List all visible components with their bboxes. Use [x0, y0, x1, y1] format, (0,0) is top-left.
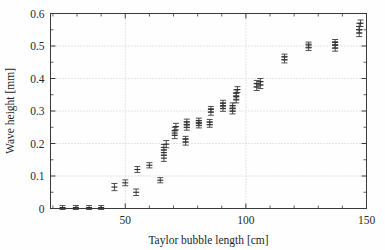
data-point	[157, 178, 163, 183]
data-point	[357, 20, 363, 27]
data-point	[183, 136, 189, 142]
y-tick-label: 0	[39, 203, 45, 215]
y-tick-label: 0.2	[30, 138, 45, 150]
data-point	[134, 167, 140, 173]
figure-container: 00.10.20.30.40.50.650100150 Taylor bubbl…	[0, 0, 385, 250]
scatter-plot: 00.10.20.30.40.50.650100150 Taylor bubbl…	[0, 0, 385, 250]
data-point	[208, 106, 214, 112]
x-tick-label: 150	[358, 214, 376, 226]
data-point	[234, 87, 240, 93]
data-point	[173, 123, 179, 130]
data-point	[207, 119, 213, 124]
y-tick-label: 0.5	[30, 40, 45, 52]
data-point	[111, 183, 117, 190]
axis-ticks	[51, 14, 367, 209]
data-point	[172, 127, 178, 134]
x-tick-label: 50	[120, 214, 132, 226]
y-tick-label: 0.1	[30, 170, 45, 182]
axis-tick-labels: 00.10.20.30.40.50.650100150	[30, 8, 375, 226]
y-tick-label: 0.6	[30, 8, 45, 20]
y-tick-label: 0.4	[30, 73, 45, 85]
data-point	[146, 163, 152, 168]
y-axis-title: Wave height [mm]	[4, 68, 17, 154]
axes-frame	[51, 14, 367, 209]
data-point	[133, 189, 139, 196]
x-axis-title: Taylor bubble length [cm]	[148, 234, 268, 247]
data-points-layer	[60, 20, 364, 209]
y-tick-label: 0.3	[30, 105, 45, 117]
data-point	[122, 180, 128, 186]
data-point	[281, 54, 287, 60]
gridlines	[51, 14, 367, 209]
x-tick-label: 100	[237, 214, 255, 226]
